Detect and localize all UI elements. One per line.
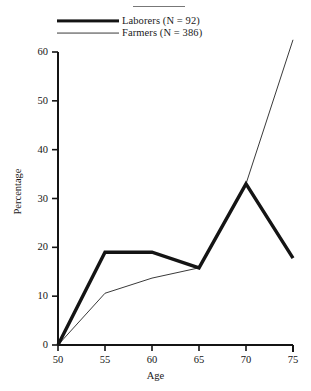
x-tick-label-70: 70 [234,354,258,365]
figure-container: Laborers (N = 92) Farmers (N = 386) 0102… [0,0,311,391]
y-tick-label-20: 20 [26,241,48,252]
series-line-farmers [58,40,293,345]
y-tick-label-40: 40 [26,144,48,155]
series-line-laborers [58,184,293,345]
y-tick-label-10: 10 [26,290,48,301]
y-tick-label-0: 0 [26,339,48,350]
x-tick-label-50: 50 [46,354,70,365]
x-tick-label-75: 75 [281,354,305,365]
y-tick-label-50: 50 [26,95,48,106]
x-tick-label-60: 60 [140,354,164,365]
x-tick-label-65: 65 [187,354,211,365]
y-tick-label-60: 60 [26,46,48,57]
y-axis-title: Percentage [12,157,23,227]
y-tick-label-30: 30 [26,193,48,204]
x-tick-label-55: 55 [93,354,117,365]
x-axis-title: Age [0,370,311,381]
